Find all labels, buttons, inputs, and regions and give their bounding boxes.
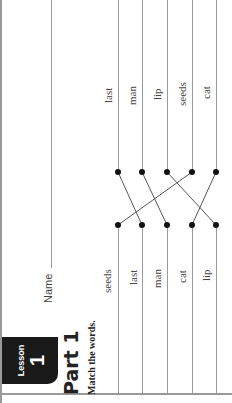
right-dot[interactable] — [139, 169, 145, 175]
worksheet-page: Lesson 1 Part 1 Match the words. Name se… — [0, 0, 232, 403]
left-dot[interactable] — [139, 222, 145, 228]
right-dot[interactable] — [213, 169, 219, 175]
right-dot[interactable] — [164, 169, 170, 175]
right-dot[interactable] — [189, 169, 195, 175]
left-dot[interactable] — [164, 222, 170, 228]
left-dot[interactable] — [189, 222, 195, 228]
left-dot[interactable] — [115, 222, 121, 228]
right-dot[interactable] — [115, 169, 121, 175]
match-connections — [0, 0, 232, 403]
left-dot[interactable] — [213, 222, 219, 228]
